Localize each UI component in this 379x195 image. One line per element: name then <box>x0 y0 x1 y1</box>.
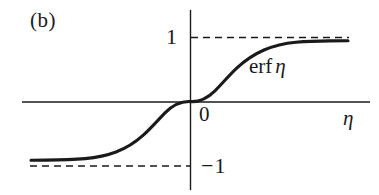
x-axis-label-eta: η <box>343 108 353 129</box>
y-tick-label-one: 1 <box>166 26 177 48</box>
panel-label: (b) <box>30 10 56 31</box>
erf-plot-svg <box>0 0 379 195</box>
curve-label-function-name: erf <box>249 54 272 78</box>
y-tick-label-minus-one: −1 <box>201 155 226 177</box>
erf-curve <box>31 41 348 160</box>
figure-panel-b: (b) 1 −1 0 η erfη <box>0 0 379 195</box>
origin-label: 0 <box>199 104 210 125</box>
curve-label-erf-eta: erfη <box>249 56 286 77</box>
curve-label-eta-glyph: η <box>275 54 285 78</box>
